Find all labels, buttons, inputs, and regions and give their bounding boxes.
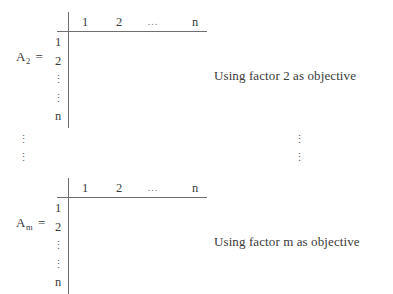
matrix-label-letter: A — [16, 49, 26, 64]
matrix-label-letter: A — [16, 215, 26, 230]
column-header-n: n — [186, 180, 204, 196]
matrix-label-equals: = — [33, 215, 46, 230]
matrix-row-headers: 1 2 ⋮ ⋮ n — [50, 33, 66, 126]
matrix-column-headers: 1 2 ... n — [68, 14, 207, 30]
row-header-ellipsis-1: ⋮ — [50, 70, 66, 89]
column-header-n: n — [186, 14, 204, 30]
row-header-ellipsis-1: ⋮ — [50, 236, 66, 255]
vertical-ellipsis-left-lower: ⋮ — [18, 152, 28, 162]
matrix-top-rule — [57, 31, 207, 32]
row-header-n: n — [50, 107, 66, 126]
column-header-1: 1 — [76, 14, 94, 30]
row-header-2: 2 — [50, 218, 66, 237]
matrix-column-headers: 1 2 ... n — [68, 180, 207, 196]
matrix-label-am: Am= — [16, 216, 46, 232]
matrix-caption-am: Using factor m as objective — [214, 234, 360, 250]
matrix-row-headers: 1 2 ⋮ ⋮ n — [50, 199, 66, 292]
matrix-caption-a2: Using factor 2 as objective — [214, 68, 356, 84]
column-header-1: 1 — [76, 180, 94, 196]
row-header-1: 1 — [50, 199, 66, 218]
row-header-1: 1 — [50, 33, 66, 52]
column-header-2: 2 — [110, 14, 128, 30]
vertical-ellipsis-right-upper: ⋮ — [294, 134, 304, 144]
vertical-ellipsis-left-upper: ⋮ — [18, 134, 28, 144]
column-header-ellipsis: ... — [144, 14, 162, 30]
row-header-ellipsis-2: ⋮ — [50, 89, 66, 108]
matrix-label-subscript: m — [26, 222, 33, 232]
matrix-top-rule — [57, 197, 207, 198]
matrix-label-a2: A2= — [16, 50, 43, 66]
column-header-2: 2 — [110, 180, 128, 196]
matrix-figure: A2= 1 2 ... n 1 2 ⋮ ⋮ n Using factor 2 a… — [0, 0, 393, 294]
vertical-ellipsis-right-lower: ⋮ — [294, 152, 304, 162]
row-header-n: n — [50, 273, 66, 292]
matrix-label-subscript: 2 — [26, 56, 31, 66]
row-header-2: 2 — [50, 52, 66, 71]
matrix-label-equals: = — [31, 49, 44, 64]
row-header-ellipsis-2: ⋮ — [50, 255, 66, 274]
column-header-ellipsis: ... — [144, 180, 162, 196]
